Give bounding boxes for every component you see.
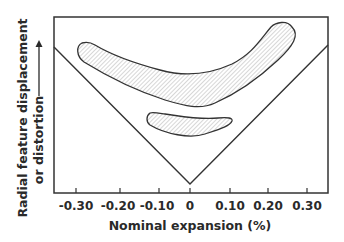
x-tick-label: -0.30 <box>59 199 94 213</box>
x-tick-label: -0.10 <box>140 199 175 213</box>
x-tick-label: 0 <box>186 199 194 213</box>
y-axis-title-line2-group: or distortion <box>31 40 46 184</box>
large-hatched-region <box>78 22 296 106</box>
x-axis-title: Nominal expansion (%) <box>109 218 272 233</box>
y-axis-title-line1: Radial feature displacement <box>15 18 30 217</box>
small-hatched-region <box>147 113 232 136</box>
x-tick-label: 0.10 <box>215 199 245 213</box>
x-tick-label: 0.30 <box>292 199 322 213</box>
x-tick-label: 0.20 <box>253 199 283 213</box>
x-tick-label: -0.20 <box>101 199 136 213</box>
y-axis-title-line2: or distortion <box>31 96 46 184</box>
arrow-up-icon <box>36 40 43 47</box>
chart: -0.30 -0.20 -0.10 0 0.10 0.20 0.30 Nomin… <box>0 0 344 242</box>
y-axis-title: Radial feature displacement <box>15 18 30 217</box>
x-axis-tick-labels: -0.30 -0.20 -0.10 0 0.10 0.20 0.30 <box>59 199 322 213</box>
